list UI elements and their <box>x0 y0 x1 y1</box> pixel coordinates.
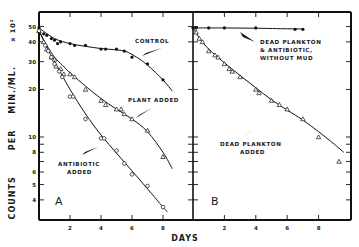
data-point-filled-circle <box>301 28 304 31</box>
data-point-filled-circle <box>45 34 48 37</box>
annotation-text: WITHOUT MUD <box>260 55 313 61</box>
x-axis-title: DAYS <box>171 234 199 243</box>
data-point-filled-circle <box>146 62 149 65</box>
ylabel-word-counts: COUNTS <box>8 176 17 219</box>
data-point-open-circle <box>102 137 106 141</box>
data-point-open-circle <box>146 184 150 188</box>
data-point-filled-circle <box>104 48 107 51</box>
data-point-filled-circle <box>115 48 118 51</box>
data-point-open-triangle <box>119 107 123 111</box>
data-point-open-circle <box>43 44 47 48</box>
data-point-filled-circle <box>293 28 296 31</box>
annotation-text: ADDED <box>240 149 265 155</box>
data-point-filled-circle <box>191 26 194 29</box>
data-point-open-triangle <box>122 112 126 116</box>
data-point-open-triangle <box>337 159 341 163</box>
data-point-open-circle <box>60 75 64 79</box>
y-tick-label: 50 <box>28 24 36 30</box>
data-point-open-circle <box>71 95 75 99</box>
data-markers <box>37 26 341 209</box>
data-point-filled-circle <box>99 48 102 51</box>
annotations: CONTROLPLANT ADDEDANTIBIOTICADDEDDEAD PL… <box>58 32 321 175</box>
annotation-text: ADDED <box>67 169 92 175</box>
data-point-filled-circle <box>254 26 257 29</box>
y-tick-label: 10 <box>28 134 36 140</box>
data-point-open-circle <box>37 29 41 33</box>
data-point-filled-circle <box>123 49 126 52</box>
y-tick-label: 5 <box>32 182 36 188</box>
chart-svg: 4568102030405024682468 CONTROLPLANT ADDE… <box>0 0 359 247</box>
data-point-filled-circle <box>50 37 53 40</box>
x-tick-label: 8 <box>161 225 165 231</box>
data-point-open-triangle <box>316 135 320 139</box>
data-point-filled-circle <box>53 39 56 42</box>
data-point-open-triangle <box>99 98 103 102</box>
ylabel-word-min-ml: MIN./ML. <box>8 66 17 114</box>
data-point-open-circle <box>122 162 126 166</box>
x-tick-label: 4 <box>99 225 103 231</box>
annotation-text: DEAD PLANKTON <box>260 39 321 45</box>
ylabel-word-per: PER <box>8 130 17 151</box>
y-tick-label: 20 <box>28 86 36 92</box>
annotation-text: PLANT ADDED <box>128 97 179 103</box>
data-point-filled-circle <box>130 56 133 59</box>
pointer-wedge-icon <box>136 108 152 118</box>
panel-b-label: B <box>211 195 219 208</box>
x-tick-label: 2 <box>222 225 226 231</box>
data-point-open-circle <box>47 49 51 53</box>
annotation-text: & ANTIBIOTIC, <box>260 47 313 53</box>
x-tick-label: 8 <box>317 225 321 231</box>
y-tick-label: 4 <box>32 197 36 203</box>
y-tick-label: 6 <box>32 169 36 175</box>
svg-text:COUNTS PER MIN: COUNTS PER MIN./ML. x 10² <box>8 18 17 219</box>
data-point-open-circle <box>53 62 57 66</box>
data-point-open-triangle <box>227 67 231 71</box>
x-tick-label: 2 <box>68 225 72 231</box>
data-point-open-triangle <box>197 36 201 40</box>
data-point-filled-circle <box>84 44 87 47</box>
panel-a-label: A <box>55 195 63 208</box>
data-point-open-circle <box>84 117 88 121</box>
data-point-open-circle <box>130 173 134 177</box>
data-point-open-circle <box>57 70 61 74</box>
pointer-wedge-icon <box>240 32 255 42</box>
y-tick-label: 40 <box>28 39 36 45</box>
pointer-wedge-icon <box>244 127 257 136</box>
data-point-open-circle <box>115 149 119 153</box>
data-point-filled-circle <box>195 26 198 29</box>
data-point-filled-circle <box>56 42 59 45</box>
annotation-text: ANTIBIOTIC <box>58 161 100 167</box>
ylabel-word-multiplier: x 10² <box>9 18 17 41</box>
annotation-text: CONTROL <box>135 38 169 44</box>
data-point-filled-circle <box>73 44 76 47</box>
data-point-open-circle <box>50 55 54 59</box>
annotation-text: DEAD PLANKTON <box>220 141 281 147</box>
data-point-filled-circle <box>42 32 45 35</box>
data-point-filled-circle <box>161 78 164 81</box>
data-point-filled-circle <box>223 26 226 29</box>
y-axis-title: COUNTS PER MIN./ML. x 10² <box>8 18 17 219</box>
x-tick-label: 6 <box>130 225 134 231</box>
pointer-wedge-icon <box>142 48 162 56</box>
y-tick-label: 8 <box>32 149 36 155</box>
figure: 4568102030405024682468 CONTROLPLANT ADDE… <box>0 0 359 247</box>
data-point-filled-circle <box>207 26 210 29</box>
data-point-filled-circle <box>68 42 71 45</box>
data-point-filled-circle <box>59 40 62 43</box>
pointer-wedge-icon <box>82 147 98 155</box>
y-tick-label: 30 <box>28 59 36 65</box>
x-tick-label: 4 <box>254 225 258 231</box>
data-point-open-circle <box>161 205 165 209</box>
x-tick-label: 6 <box>285 225 289 231</box>
